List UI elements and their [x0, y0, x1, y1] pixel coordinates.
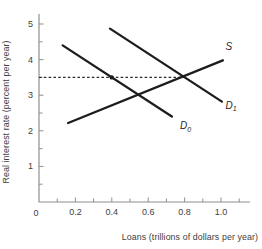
loanable-funds-figure: Real interest rate (percent per year) Lo… [0, 0, 262, 249]
y-tick-label: 4 [28, 55, 33, 65]
supply-curve-label: S [226, 41, 233, 52]
x-tick-label: 0.4 [106, 207, 119, 217]
supply-curve [68, 60, 223, 123]
loanable-funds-chart: Real interest rate (percent per year) Lo… [0, 0, 262, 249]
y-tick-label: 5 [28, 19, 33, 29]
demand-new-curve-label: D1 [226, 100, 237, 113]
demand-initial-curve-label: D0 [180, 120, 191, 133]
y-axis-title: Real interest rate (percent per year) [1, 40, 11, 183]
y-tick-label: 2 [28, 126, 33, 136]
origin-label: 0 [33, 208, 38, 218]
x-tick-label: 0.2 [69, 207, 82, 217]
y-tick-label: 3 [28, 90, 33, 100]
equilibrium-dot [110, 75, 114, 79]
x-axis-title: Loans (trillions of dollars per year) [122, 232, 258, 242]
x-tick-label: 1.0 [215, 207, 228, 217]
demand-new-curve [110, 29, 222, 102]
axes-lines [39, 14, 250, 202]
demand-initial-curve [63, 45, 172, 116]
y-tick-label: 1 [28, 161, 33, 171]
x-tick-label: 0.6 [142, 207, 155, 217]
x-tick-label: 0.8 [178, 207, 191, 217]
